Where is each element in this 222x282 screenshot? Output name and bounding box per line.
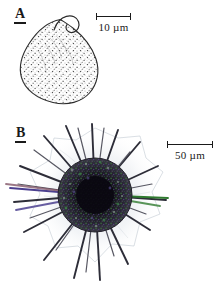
scalebar-a-tick-right bbox=[130, 13, 131, 20]
organism-b-illustration bbox=[0, 122, 170, 282]
figure-panel-container: A bbox=[0, 0, 222, 282]
scalebar-a-bar bbox=[96, 13, 131, 20]
organism-a-illustration bbox=[16, 14, 106, 110]
scalebar-panel-b: 50 µm bbox=[167, 141, 213, 161]
scalebar-a-caption: 10 µm bbox=[96, 21, 131, 33]
panel-a: A bbox=[0, 0, 222, 118]
scalebar-b-caption: 50 µm bbox=[167, 149, 213, 161]
central-capsule bbox=[58, 158, 132, 232]
scalebar-b-bar bbox=[167, 141, 213, 148]
scalebar-a-line bbox=[96, 16, 131, 17]
scalebar-panel-a: 10 µm bbox=[96, 13, 131, 33]
scalebar-b-line bbox=[167, 144, 213, 145]
scalebar-b-tick-right bbox=[212, 141, 213, 148]
shell-body bbox=[20, 20, 98, 104]
